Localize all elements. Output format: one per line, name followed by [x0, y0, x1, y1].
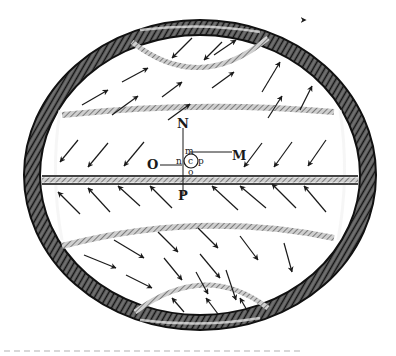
label-O: O [147, 157, 158, 172]
label-c: c [188, 156, 193, 166]
label-M: M [232, 148, 246, 163]
convection-sphere-diagram: N M O P m n c p o [0, 0, 396, 356]
label-N: N [177, 116, 189, 131]
label-P: P [178, 188, 188, 203]
label-p: p [198, 156, 204, 166]
label-n: n [176, 156, 182, 166]
label-m: m [185, 146, 194, 156]
label-o: o [188, 167, 193, 177]
